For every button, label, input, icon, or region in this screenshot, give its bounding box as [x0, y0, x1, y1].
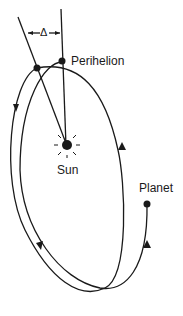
perihelion-dot	[59, 58, 66, 65]
planet-label: Planet	[139, 182, 173, 194]
delta-label: Δ	[40, 27, 47, 38]
precessed-perihelion-dot	[34, 65, 41, 72]
orbit-diagram	[0, 0, 183, 316]
planet-dot	[144, 201, 151, 208]
sun-label: Sun	[57, 164, 78, 176]
direction-arrow	[13, 104, 19, 112]
perihelion-label: Perihelion	[71, 55, 124, 67]
direction-arrow	[118, 142, 126, 150]
sun-icon	[62, 140, 72, 150]
direction-arrow	[36, 241, 43, 250]
original-axis-line	[61, 9, 66, 146]
orbit-path-outer	[11, 67, 124, 292]
